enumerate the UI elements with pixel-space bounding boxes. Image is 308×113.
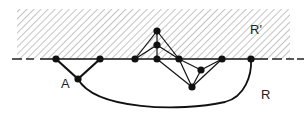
label-region-r-prime: R' xyxy=(250,22,262,37)
node-mid xyxy=(153,41,160,48)
node-l1 xyxy=(52,55,59,62)
label-vertex-a: A xyxy=(61,76,70,91)
boundary-arc xyxy=(78,59,251,107)
node-a xyxy=(74,75,81,82)
planar-graph-diagram: A R' R xyxy=(0,0,308,113)
label-region-r: R xyxy=(261,87,270,102)
node-n5 xyxy=(175,55,182,62)
node-l2 xyxy=(96,55,103,62)
node-p1 xyxy=(131,55,138,62)
node-n8 xyxy=(218,55,225,62)
node-n7 xyxy=(197,66,204,73)
node-base xyxy=(153,55,160,62)
node-top xyxy=(153,27,160,34)
node-low xyxy=(188,83,195,90)
node-rn xyxy=(247,55,254,62)
